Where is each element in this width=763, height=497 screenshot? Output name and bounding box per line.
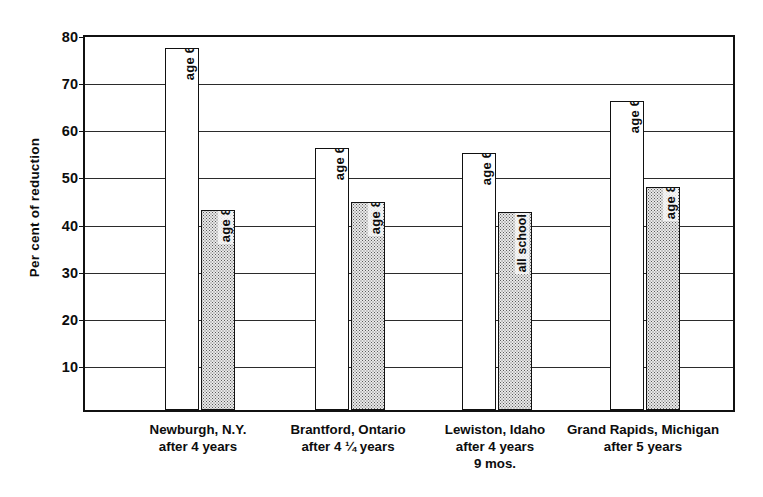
y-tick-label-50: 50 [62,170,78,186]
y-tick-label-80: 80 [62,29,78,45]
bar-group-2-second: all school ages [498,212,532,410]
y-tick-label-60: 60 [62,123,78,139]
y-tick-mark-50 [79,178,85,179]
bar-label: all school ages [515,212,529,274]
y-tick-label-20: 20 [62,312,78,328]
y-axis-title: Per cent of reduction [27,108,42,308]
y-tick-label-40: 40 [62,218,78,234]
bar-group-2-first: age 6 [462,153,496,410]
y-tick-mark-30 [79,273,85,274]
bar-group-1-second: age 8 [351,202,385,410]
bar-group-3-first: age 6 [610,101,644,410]
y-tick-label-30: 30 [62,265,78,281]
bar-chart: Per cent of reduction 1020304050607080ag… [0,0,763,497]
bar-group-3-second: age 8 [646,187,680,410]
y-tick-mark-20 [79,320,85,321]
bar-label: age 8 [218,210,233,244]
bar-group-0-second: age 8 [201,210,235,410]
bar-label: age 6 [182,48,197,80]
x-axis-label-line: after 5 years [543,438,743,455]
y-tick-mark-80 [79,37,85,38]
bar-label: age 6 [332,148,347,180]
y-tick-label-10: 10 [62,359,78,375]
x-axis-label-group-3: Grand Rapids, Michiganafter 5 years [543,421,743,455]
bar-label: age 8 [368,202,383,236]
x-axis-label-line: Grand Rapids, Michigan [543,421,743,438]
y-tick-mark-70 [79,84,85,85]
bar-label: age 6 [627,101,642,133]
bar-group-1-first: age 6 [315,148,349,410]
bar-group-0-first: age 6 [165,48,199,410]
y-tick-mark-40 [79,226,85,227]
y-tick-mark-60 [79,131,85,132]
x-axis-label-line: 9 mos. [395,455,595,472]
bar-label: age 8 [663,187,678,221]
bar-label: age 6 [479,153,494,185]
plot-area: 1020304050607080age 6age 8age 6age 8age … [83,35,735,412]
y-tick-mark-10 [79,367,85,368]
y-tick-label-70: 70 [62,76,78,92]
